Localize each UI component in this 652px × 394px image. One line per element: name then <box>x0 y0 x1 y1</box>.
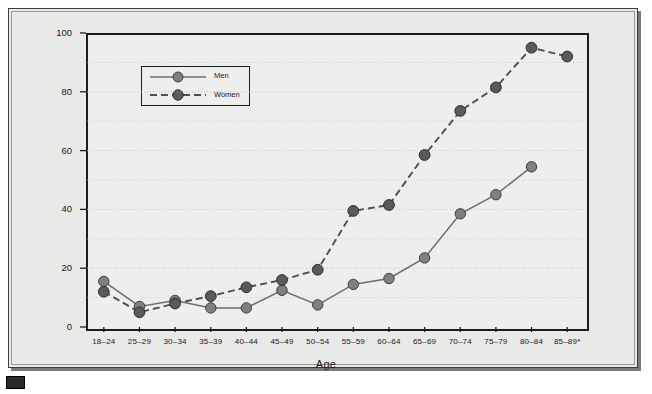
data-point-women <box>170 298 181 309</box>
data-point-men <box>241 303 251 313</box>
data-point-men <box>99 276 109 286</box>
data-point-women <box>562 51 573 62</box>
data-point-women <box>419 150 430 161</box>
data-point-men <box>348 279 358 289</box>
y-tick-label: 100 <box>38 27 72 38</box>
data-point-men <box>313 300 323 310</box>
y-tick-label: 60 <box>38 145 72 156</box>
chart-canvas <box>0 0 652 394</box>
data-point-men <box>384 273 394 283</box>
x-tick-label: 85–89* <box>544 337 590 346</box>
data-point-men <box>419 253 429 263</box>
data-point-men <box>455 209 465 219</box>
data-point-men <box>206 303 216 313</box>
axis-ticks-group <box>80 33 567 332</box>
data-point-women <box>277 275 288 286</box>
data-point-women <box>491 82 502 93</box>
data-point-men <box>526 162 536 172</box>
data-point-men <box>277 285 287 295</box>
data-point-men <box>491 190 501 200</box>
series-line-men <box>104 167 532 308</box>
data-point-women <box>205 291 216 302</box>
data-point-women <box>455 106 466 117</box>
y-tick-label: 80 <box>38 86 72 97</box>
gridlines-group <box>87 62 584 297</box>
data-point-women <box>312 264 323 275</box>
figure-root: Men Women Percent Age 020406080100 18–24… <box>0 0 652 394</box>
data-point-women <box>241 282 252 293</box>
data-point-women <box>134 307 145 318</box>
y-tick-label: 0 <box>38 321 72 332</box>
data-point-women <box>384 200 395 211</box>
data-point-women <box>98 286 109 297</box>
data-point-women <box>526 42 537 53</box>
y-tick-label: 40 <box>38 203 72 214</box>
y-tick-label: 20 <box>38 262 72 273</box>
data-point-women <box>348 206 359 217</box>
figure-marker-icon <box>6 376 25 389</box>
